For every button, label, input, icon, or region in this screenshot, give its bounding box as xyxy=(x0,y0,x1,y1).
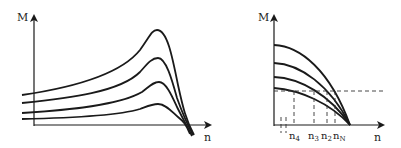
right-curve-3 xyxy=(274,77,350,125)
left-y-label: M xyxy=(17,11,28,24)
right-curve-1 xyxy=(274,45,350,125)
tick-n4: n4 xyxy=(289,130,300,143)
right-y-label: M xyxy=(258,11,269,24)
tick-n2: n2 xyxy=(321,130,332,143)
left-diagram: M n xyxy=(17,11,211,144)
right-dashed-lines xyxy=(274,91,386,133)
right-x-label: n xyxy=(374,131,381,144)
right-curve-2 xyxy=(274,63,350,125)
tick-n3: n3 xyxy=(308,130,319,143)
left-curve-2 xyxy=(22,58,193,135)
tick-nN: nN xyxy=(333,130,346,143)
left-curves xyxy=(22,30,194,136)
diagram-canvas: M n M n n4 n xyxy=(0,0,401,148)
left-curve-1 xyxy=(22,30,194,135)
right-curves xyxy=(274,45,350,125)
right-tick-labels: n4 n3 n2 nN xyxy=(289,130,346,143)
left-curve-4 xyxy=(22,104,190,134)
right-diagram: M n n4 n3 n2 nN xyxy=(258,11,386,144)
left-x-label: n xyxy=(204,131,211,144)
